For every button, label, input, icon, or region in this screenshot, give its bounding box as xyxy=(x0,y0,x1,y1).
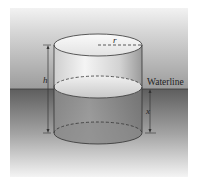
radius-label: r xyxy=(113,35,117,45)
height-label: h xyxy=(43,75,48,85)
diagram-canvas: r h x Waterline xyxy=(0,0,198,182)
depth-label: x xyxy=(145,106,150,116)
floating-cylinder-diagram: r h x Waterline xyxy=(0,0,198,182)
waterline-label: Waterline xyxy=(147,77,184,87)
